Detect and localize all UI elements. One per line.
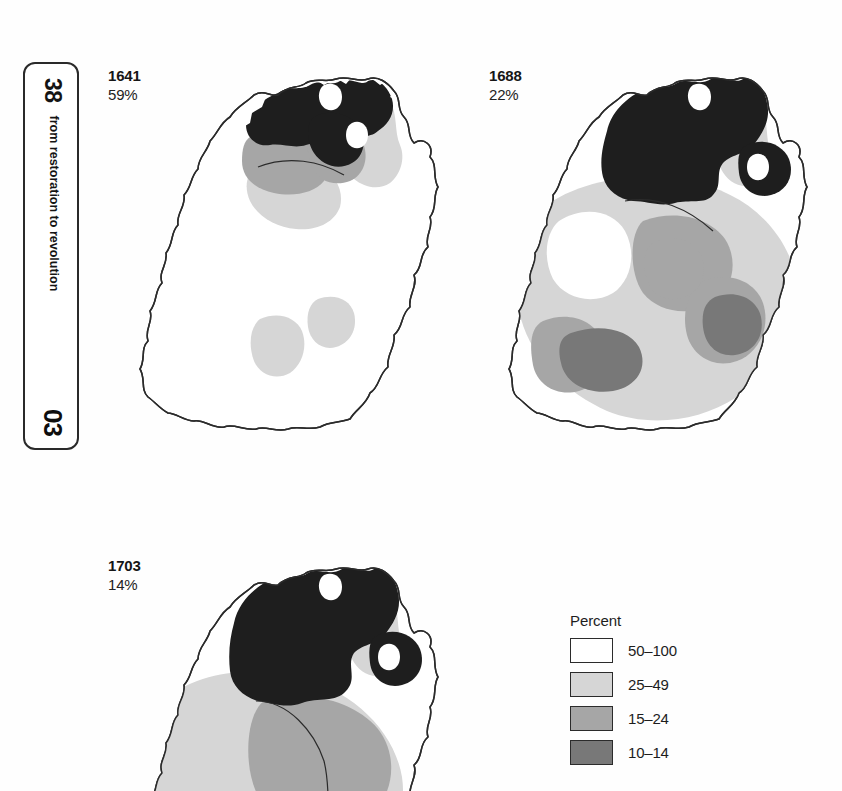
map-panel-1703: 1703 14% [108,556,478,791]
map-percent-1703: 14% [108,575,141,594]
ireland-choropleth-1703 [138,561,478,791]
map-year-1703: 1703 [108,556,141,575]
legend-swatch [570,706,613,731]
legend-label: 25–49 [628,676,669,693]
legend-label: 10–14 [628,744,669,761]
region-shade-white-1641-b [346,122,368,149]
legend-row: 15–24 [570,706,770,731]
map-percent-1641: 59% [108,85,141,104]
map-label-1703: 1703 14% [108,556,141,594]
running-title: from restoration to revolution [46,116,60,326]
legend-label: 15–24 [628,710,669,727]
map-panel-1641: 1641 59% [108,66,478,466]
region-shade-white-1688-a [547,212,631,299]
legend-swatch [570,638,613,663]
region-shade-dark-1688-b [703,294,762,355]
page-tab-rotated-content: 38 from restoration to revolution 03 [25,64,81,452]
legend-label: 50–100 [628,642,677,659]
region-shade-medium-1688-d [645,238,704,299]
page-number: 38 [40,78,67,103]
legend-swatch [570,672,613,697]
legend-swatch [570,740,613,765]
legend-row: 25–49 [570,672,770,697]
legend-rows: 50–10025–4915–2410–14 [570,638,770,765]
map-year-1641: 1641 [108,66,141,85]
legend: Percent 50–10025–4915–2410–14 [570,612,770,774]
legend-row: 10–14 [570,740,770,765]
map-panel-1688: 1688 22% [489,66,842,466]
region-shade-white-1688-c [747,154,769,181]
map-label-1641: 1641 59% [108,66,141,104]
legend-row: 50–100 [570,638,770,663]
region-shade-white-1703-b [378,644,400,671]
ireland-choropleth-1688 [507,71,842,466]
page-tab: 38 from restoration to revolution 03 [23,62,79,450]
ireland-choropleth-1641 [138,71,478,466]
chapter-number: 03 [25,409,81,436]
legend-title: Percent [570,612,770,629]
